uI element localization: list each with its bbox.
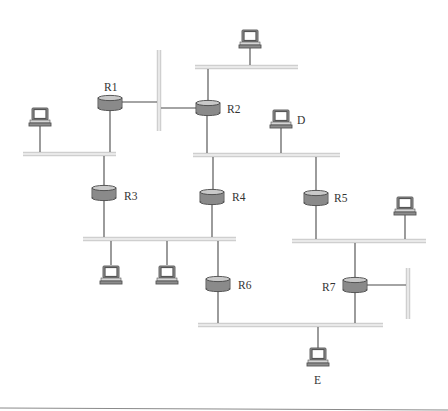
router-r6-label: R6 bbox=[238, 279, 252, 291]
router-r4-label: R4 bbox=[232, 191, 246, 203]
router-r5[interactable] bbox=[304, 190, 328, 205]
router-r3-label: R3 bbox=[124, 190, 138, 202]
router-r6[interactable] bbox=[206, 276, 230, 291]
computer-icon bbox=[239, 30, 261, 48]
host-right[interactable] bbox=[394, 197, 416, 215]
router-r1-label: R1 bbox=[104, 81, 118, 93]
host-e-label: E bbox=[314, 374, 321, 386]
router-r5-label: R5 bbox=[334, 192, 348, 204]
computer-icon bbox=[307, 348, 329, 366]
router-icon bbox=[98, 95, 122, 110]
router-icon bbox=[206, 276, 230, 291]
router-r2[interactable] bbox=[196, 100, 220, 115]
computer-icon bbox=[29, 108, 51, 126]
bottom-divider bbox=[0, 408, 448, 410]
host-lower-1[interactable] bbox=[100, 266, 122, 284]
router-r2-label: R2 bbox=[227, 103, 241, 115]
router-icon bbox=[343, 277, 367, 292]
router-icon bbox=[92, 185, 116, 200]
router-r1[interactable] bbox=[98, 95, 122, 110]
computer-icon bbox=[394, 197, 416, 215]
host-d[interactable] bbox=[270, 110, 292, 128]
router-r7-label: R7 bbox=[322, 281, 336, 293]
host-e[interactable] bbox=[307, 348, 329, 366]
computer-icon bbox=[270, 110, 292, 128]
host-lower-2[interactable] bbox=[156, 266, 178, 284]
router-r3[interactable] bbox=[92, 185, 116, 200]
router-r4[interactable] bbox=[200, 189, 224, 204]
router-icon bbox=[196, 100, 220, 115]
network-diagram: R1 R2 R3 R4 R5 R6 R7 D E bbox=[0, 0, 448, 411]
host-top[interactable] bbox=[239, 30, 261, 48]
computer-icon bbox=[100, 266, 122, 284]
host-left[interactable] bbox=[29, 108, 51, 126]
host-d-label: D bbox=[297, 114, 305, 126]
router-r7[interactable] bbox=[343, 277, 367, 292]
router-icon bbox=[200, 189, 224, 204]
computer-icon bbox=[156, 266, 178, 284]
router-icon bbox=[304, 190, 328, 205]
